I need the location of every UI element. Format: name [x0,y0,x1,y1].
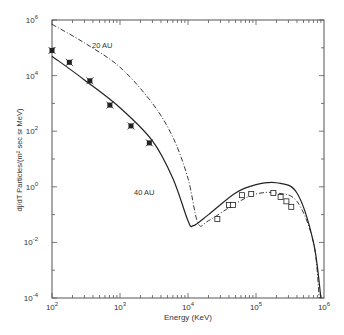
y-tick-label: 10-2 [24,236,39,247]
square-data-point [271,190,276,195]
x-axis-label: Energy (KeV) [164,313,212,322]
x-tick-label: 103 [114,301,127,312]
y-tick-label: 10-4 [24,292,39,303]
square-data-point [284,199,289,204]
y-tick-label: 100 [26,181,39,192]
y-tick-label: 106 [26,14,39,25]
x-tick-label: 105 [250,301,263,312]
y-tick-label: 102 [26,125,39,136]
plot-frame [52,20,324,298]
square-data-point [215,216,220,221]
energy-spectrum-chart: 10210310410510610610410210010-210-4 Ener… [0,0,344,335]
axis-tick-labels: 10210310410510610610410210010-210-4 [24,14,331,312]
y-tick-label: 104 [26,70,39,81]
data-markers [49,47,294,221]
annotation-20au: 20 AU [92,41,112,50]
y-axis-label: dj/dT Particles/(m² sec sr MeV) [15,108,24,211]
curve-40au [52,56,321,298]
annotation-40au: 40 AU [134,188,154,197]
axis-ticks [52,20,324,298]
curve-20au [52,24,319,298]
square-data-point [289,204,294,209]
x-tick-label: 104 [182,301,195,312]
square-data-point [239,193,244,198]
square-data-point [249,192,254,197]
x-tick-label: 106 [318,301,331,312]
x-tick-label: 102 [46,301,59,312]
square-data-point [278,194,283,199]
model-curves [52,24,321,298]
square-data-point [231,203,236,208]
